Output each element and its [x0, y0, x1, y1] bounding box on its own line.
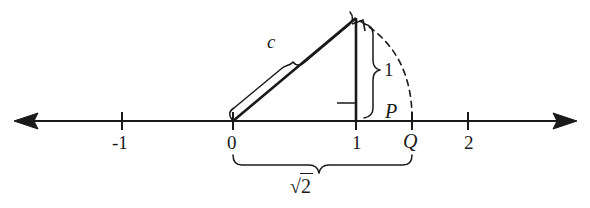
figure-root: -1 0 1 2 Q P c 1 √2 [0, 0, 590, 208]
point-label-q: Q [403, 131, 417, 151]
right-arrowhead [553, 113, 577, 129]
tick-label-minus-1: -1 [112, 133, 128, 152]
radicand: 2 [300, 173, 313, 197]
point-label-p: P [385, 101, 397, 121]
left-arrowhead [14, 113, 38, 129]
hypotenuse-brace [230, 12, 353, 121]
tick-label-0: 0 [227, 133, 237, 152]
right-angle-marker [337, 103, 356, 121]
right-triangle [233, 18, 356, 121]
tick-label-2: 2 [464, 133, 474, 152]
arc-arrowhead [352, 20, 365, 31]
tick-label-1: 1 [352, 133, 362, 152]
hypotenuse-segment [233, 18, 356, 121]
number-line-group [14, 112, 577, 130]
sqrt2-brace [233, 155, 412, 173]
hypotenuse-label: c [267, 32, 275, 51]
vertical-leg-label: 1 [384, 60, 394, 79]
sqrt2-label: √2 [290, 176, 313, 196]
vertical-leg-brace [364, 24, 380, 118]
